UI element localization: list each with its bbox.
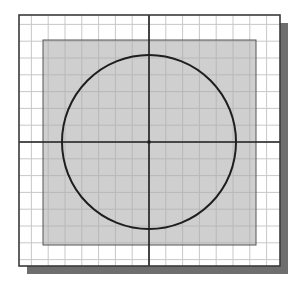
sketch-canvas xyxy=(0,0,297,286)
origin-point xyxy=(148,141,151,144)
